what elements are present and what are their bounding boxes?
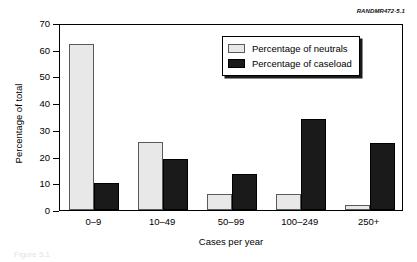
bar-caseload-0 <box>94 183 119 210</box>
bar-neutrals-3 <box>276 194 301 210</box>
y-axis-tick-mark <box>53 211 59 212</box>
bar-neutrals-4 <box>345 205 370 210</box>
bar-caseload-2 <box>232 174 257 210</box>
y-axis-tick-label: 40 <box>28 98 50 109</box>
x-axis-tick-label: 250+ <box>329 216 409 227</box>
legend-label-neutrals: Percentage of neutrals <box>252 43 348 54</box>
caption-sliver: Figure 5.1 <box>14 250 50 259</box>
y-axis-tick-label: 60 <box>28 45 50 56</box>
bar-caseload-3 <box>301 119 326 210</box>
y-axis-tick-label: 20 <box>28 152 50 163</box>
y-axis-tick-label: 50 <box>28 71 50 82</box>
y-axis-tick-label: 70 <box>28 18 50 29</box>
bar-caseload-1 <box>163 159 188 210</box>
bar-caseload-4 <box>370 143 395 210</box>
chart-legend: Percentage of neutrals Percentage of cas… <box>222 36 360 76</box>
y-axis-tick-label: 10 <box>28 178 50 189</box>
bar-neutrals-1 <box>138 142 163 210</box>
legend-entry-caseload: Percentage of caseload <box>228 56 352 71</box>
y-axis-tick-label: 30 <box>28 125 50 136</box>
y-axis-tick-label: 0 <box>28 205 50 216</box>
legend-swatch-caseload-icon <box>228 59 245 68</box>
legend-label-caseload: Percentage of caseload <box>252 58 352 69</box>
source-id-label: RANDMR472-5.1 <box>357 8 405 14</box>
legend-swatch-neutrals-icon <box>228 44 245 53</box>
y-axis-title: Percentage of total <box>13 44 24 204</box>
bar-neutrals-2 <box>207 194 232 210</box>
x-axis-title: Cases per year <box>59 236 403 247</box>
figure-container: RANDMR472-5.1 Percentage of total 010203… <box>0 0 417 262</box>
legend-entry-neutrals: Percentage of neutrals <box>228 41 352 56</box>
bar-neutrals-0 <box>69 44 94 210</box>
